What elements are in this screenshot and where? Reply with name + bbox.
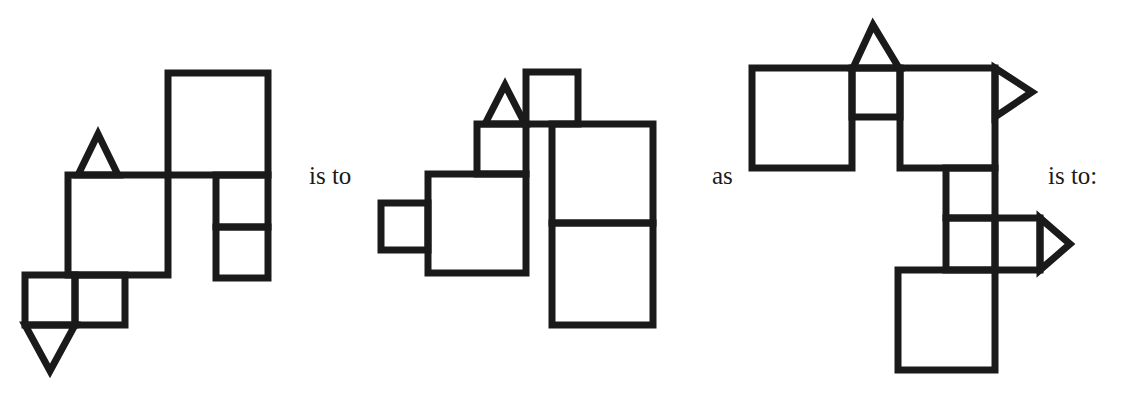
large-square-middle bbox=[68, 175, 168, 275]
small-square-top bbox=[526, 72, 578, 124]
figure-c bbox=[752, 25, 1070, 370]
small-square-right-upper bbox=[216, 175, 268, 227]
small-square-column-lower bbox=[946, 218, 995, 270]
connector-as: as bbox=[712, 163, 733, 188]
small-square-right-lower bbox=[216, 227, 268, 278]
small-square-right-of-column bbox=[995, 218, 1040, 270]
large-square-right-upper bbox=[552, 124, 653, 223]
triangle-down-bottom bbox=[25, 325, 75, 371]
large-square-bottom bbox=[898, 270, 995, 370]
large-square-right-lower bbox=[552, 223, 653, 325]
connector-is-to-second: is to: bbox=[1048, 163, 1097, 188]
triangle-up-left-of-top-square bbox=[485, 85, 525, 124]
figure-b bbox=[381, 72, 653, 325]
triangle-up-on-middle-square bbox=[78, 134, 118, 175]
triangle-up-on-small-square bbox=[853, 25, 899, 68]
small-square-far-left bbox=[381, 203, 428, 250]
large-square-left bbox=[428, 174, 526, 273]
large-square-top-left bbox=[752, 68, 852, 168]
analogy-figures bbox=[0, 0, 1128, 399]
small-square-column-upper bbox=[946, 168, 995, 218]
connector-is-to-first: is to bbox=[309, 163, 351, 188]
large-square-top-right bbox=[168, 73, 268, 175]
triangle-right-pointing-upper bbox=[995, 68, 1032, 117]
small-square-top-middle bbox=[852, 68, 900, 117]
large-square-top-right bbox=[900, 68, 995, 168]
small-square-under-triangle bbox=[477, 124, 526, 174]
figure-a bbox=[25, 73, 268, 371]
triangle-right-pointing-lower bbox=[1040, 218, 1070, 270]
small-square-bottom-left bbox=[25, 275, 75, 325]
small-square-bottom-right bbox=[75, 275, 125, 325]
puzzle-canvas: is to as is to: bbox=[0, 0, 1128, 399]
